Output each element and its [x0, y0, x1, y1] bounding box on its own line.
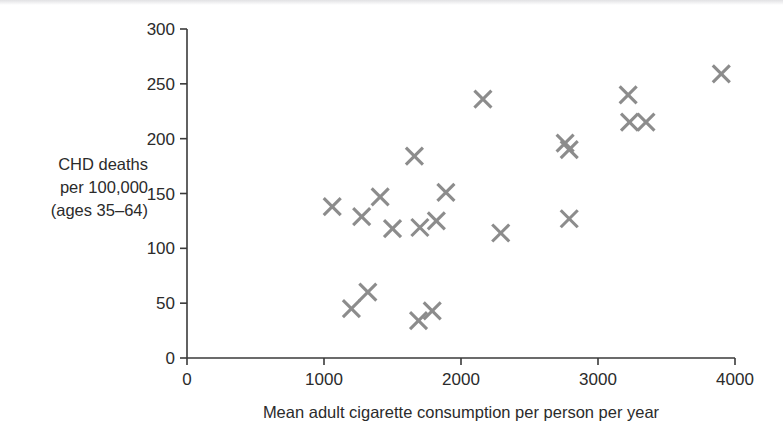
y-tick-label: 250 — [147, 75, 175, 94]
data-point-marker — [410, 312, 427, 329]
data-point-marker — [372, 188, 389, 205]
data-point-marker — [474, 91, 491, 108]
y-tick-label: 0 — [166, 349, 175, 368]
x-tick-label: 3000 — [579, 370, 617, 389]
data-point-marker — [492, 224, 509, 241]
y-axis-title-line-2: per 100,000 — [60, 178, 148, 196]
data-point-marker — [384, 220, 401, 237]
data-point-marker — [406, 148, 423, 165]
data-point-marker — [428, 212, 445, 229]
scatter-plot-figure: 050100150200250300 01000200030004000 Mea… — [0, 0, 783, 432]
data-point-marker — [353, 208, 370, 225]
data-point-marker — [324, 198, 341, 215]
plot-canvas: 050100150200250300 01000200030004000 Mea… — [0, 0, 783, 432]
data-point-marker — [424, 302, 441, 319]
y-tick-label: 100 — [147, 239, 175, 258]
data-point-marker — [637, 114, 654, 131]
x-tick-label: 1000 — [305, 370, 343, 389]
data-point-marker — [561, 141, 578, 158]
data-point-marker — [620, 86, 637, 103]
data-point-marker — [621, 114, 638, 131]
data-point-marker — [411, 219, 428, 236]
y-axis-title-line-1: CHD deaths — [58, 155, 148, 173]
y-tick-label: 200 — [147, 130, 175, 149]
y-tick-label: 300 — [147, 20, 175, 39]
x-axis-title: Mean adult cigarette consumption per per… — [263, 403, 660, 421]
x-axis: 01000200030004000 — [182, 358, 754, 389]
x-tick-label: 0 — [182, 370, 191, 389]
y-axis: 050100150200250300 — [147, 20, 187, 368]
y-tick-label: 150 — [147, 185, 175, 204]
data-point-marker — [713, 65, 730, 82]
data-point-marker — [561, 210, 578, 227]
y-tick-label: 50 — [156, 294, 175, 313]
y-axis-title-line-3: (ages 35–64) — [51, 201, 148, 219]
data-point-marker — [359, 284, 376, 301]
data-point-marker — [343, 300, 360, 317]
x-tick-label: 4000 — [716, 370, 754, 389]
data-point-marker — [437, 184, 454, 201]
x-tick-label: 2000 — [442, 370, 480, 389]
data-points — [324, 65, 730, 329]
